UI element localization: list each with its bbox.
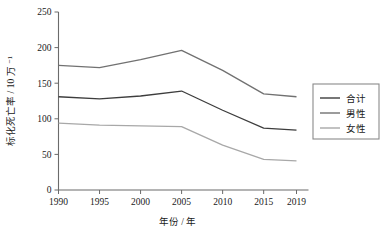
x-tick-label: 2010 (213, 197, 232, 207)
chart-container: 050100150200250 199019952000200520102015… (0, 0, 383, 235)
line-chart: 050100150200250 199019952000200520102015… (0, 0, 383, 235)
y-tick-label: 50 (42, 150, 52, 160)
data-series (59, 50, 297, 160)
y-tick-label: 200 (37, 43, 52, 53)
series-line-男性 (59, 50, 297, 96)
legend-label-合计: 合计 (346, 93, 366, 104)
y-tick-label: 100 (37, 114, 52, 124)
y-axis-ticks: 050100150200250 (37, 7, 58, 195)
x-axis-title: 年份 / 年 (159, 216, 196, 227)
y-tick-label: 150 (37, 79, 52, 89)
x-tick-label: 2005 (172, 197, 191, 207)
y-tick-label: 250 (37, 7, 52, 17)
x-tick-label: 1990 (49, 197, 68, 207)
x-tick-label: 2019 (287, 197, 306, 207)
series-line-女性 (59, 123, 297, 161)
x-tick-label: 2000 (131, 197, 150, 207)
legend-label-女性: 女性 (346, 123, 366, 134)
axis-lines (59, 12, 309, 190)
x-axis-ticks: 1990199520002005201020152019 (49, 190, 306, 207)
y-axis-title: 标化死亡率 / 10 万 ⁻¹ (5, 56, 16, 146)
y-tick-label: 0 (47, 185, 52, 195)
chart-legend: 合计男性女性 (313, 84, 379, 139)
legend-label-男性: 男性 (346, 108, 366, 119)
x-tick-label: 1995 (90, 197, 109, 207)
axis-spine (59, 12, 309, 190)
x-tick-label: 2015 (254, 197, 273, 207)
